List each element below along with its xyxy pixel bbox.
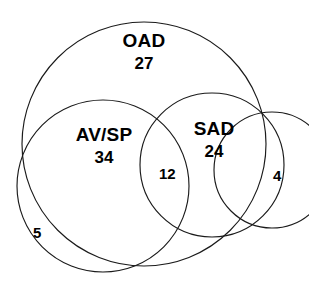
set-label-avsp-count: 34 <box>54 148 154 168</box>
region-count-avsp-sad-intersection: 12 <box>159 165 176 182</box>
set-label-sad-count: 24 <box>180 142 248 162</box>
set-label-avsp: AV/SP 34 <box>54 124 154 168</box>
region-count-lower-left-crescent: 5 <box>33 224 41 241</box>
venn-diagram: OAD 27 AV/SP 34 SAD 24 12 4 5 <box>0 0 309 293</box>
set-label-oad-name: OAD <box>101 30 187 52</box>
set-label-avsp-name: AV/SP <box>54 124 154 146</box>
set-label-oad: OAD 27 <box>101 30 187 74</box>
set-label-oad-count: 27 <box>101 54 187 74</box>
region-count-right-crescent: 4 <box>273 167 281 184</box>
set-label-sad-name: SAD <box>180 118 248 140</box>
set-label-sad: SAD 24 <box>180 118 248 162</box>
